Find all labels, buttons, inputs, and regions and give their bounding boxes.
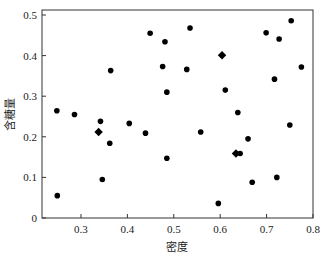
sample-point — [98, 119, 104, 125]
sample-point — [299, 64, 305, 70]
plot-area — [42, 10, 313, 218]
y-tick-label: 0.3 — [23, 90, 37, 102]
sample-point — [162, 39, 168, 45]
sample-point — [187, 25, 193, 31]
sample-point — [198, 129, 204, 135]
y-axis-label: 含糖量 — [3, 98, 17, 131]
sample-point — [72, 112, 78, 118]
sample-point — [263, 30, 269, 36]
sample-point — [276, 36, 282, 42]
y-tick-label: 0.2 — [23, 131, 37, 143]
sample-point — [108, 68, 114, 74]
scatter-chart: 00.10.20.30.40.5 0.30.40.50.60.70.8 密度 含… — [0, 0, 327, 261]
sample-point — [143, 130, 149, 136]
sample-point — [160, 64, 166, 70]
sample-point — [272, 76, 278, 82]
x-tick-label: 0.6 — [213, 223, 227, 235]
x-tick-label: 0.4 — [121, 223, 135, 235]
sample-point — [235, 110, 241, 116]
sample-point — [222, 87, 228, 93]
sample-point — [126, 121, 132, 127]
sample-point — [274, 175, 280, 181]
x-tick-label: 0.5 — [167, 223, 181, 235]
x-tick-label: 0.7 — [260, 223, 274, 235]
y-tick-label: 0.1 — [23, 171, 37, 183]
sample-point — [54, 108, 60, 114]
x-tick-label: 0.8 — [306, 223, 320, 235]
sample-point — [216, 201, 222, 207]
sample-point — [249, 179, 255, 185]
sample-point — [245, 136, 251, 142]
y-tick-label: 0.5 — [23, 9, 37, 21]
x-axis-label: 密度 — [166, 240, 188, 254]
sample-point — [147, 30, 153, 36]
sample-point — [164, 89, 170, 95]
y-tick-label: 0.4 — [23, 50, 37, 62]
sample-point — [287, 122, 293, 128]
sample-point — [164, 156, 170, 162]
x-tick-label: 0.3 — [74, 223, 88, 235]
y-tick-label: 0 — [32, 212, 38, 224]
sample-point — [55, 193, 61, 199]
sample-point — [184, 67, 190, 73]
sample-point — [100, 177, 106, 183]
sample-point — [107, 140, 113, 146]
sample-point — [288, 18, 294, 24]
